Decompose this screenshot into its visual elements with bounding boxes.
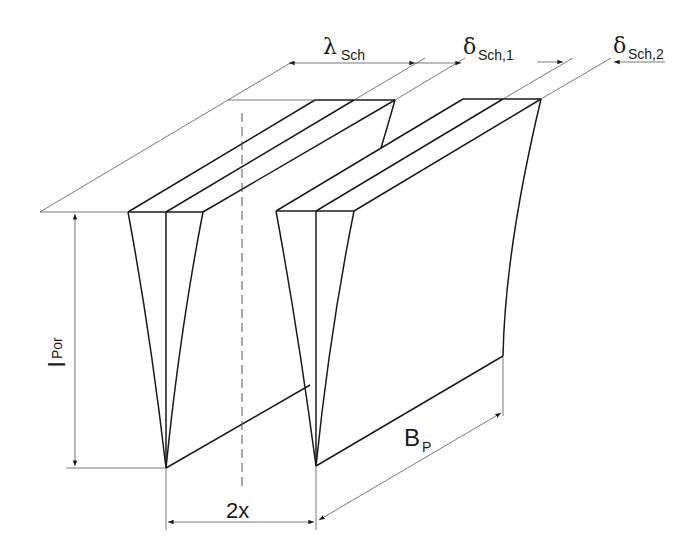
label-lambda: λ xyxy=(323,34,337,59)
dim-l-por: l Por xyxy=(43,214,166,468)
label-lpor: l xyxy=(43,362,70,367)
dim-bp: B P xyxy=(319,356,503,520)
label-2x: 2x xyxy=(226,498,249,523)
label-delta1-sub: Sch,1 xyxy=(478,47,514,63)
label-lambda-sub: Sch xyxy=(341,47,365,63)
fin2-front-left-curve xyxy=(276,211,316,466)
fin-diagram: λ Sch δ Sch,1 δ Sch,2 l Por 2x xyxy=(0,0,699,550)
fin2-front-right-curve xyxy=(316,211,354,466)
fin1-front-right-curve xyxy=(166,212,203,468)
dim-delta-sch1: δ Sch,1 xyxy=(395,34,514,100)
fin-1 xyxy=(128,100,395,468)
label-lpor-sub: Por xyxy=(49,337,65,359)
dim-delta-sch2: δ Sch,2 xyxy=(503,33,665,99)
label-bp: B xyxy=(404,424,420,451)
fin1-front-left-curve xyxy=(128,212,166,468)
dim-lambda-sch: λ Sch xyxy=(228,34,425,100)
fin-2 xyxy=(276,99,541,466)
label-delta1: δ xyxy=(463,34,476,59)
label-delta2: δ xyxy=(613,33,626,58)
label-bp-sub: P xyxy=(422,439,431,455)
dim-2x: 2x xyxy=(166,466,316,530)
label-delta2-sub: Sch,2 xyxy=(628,46,664,62)
